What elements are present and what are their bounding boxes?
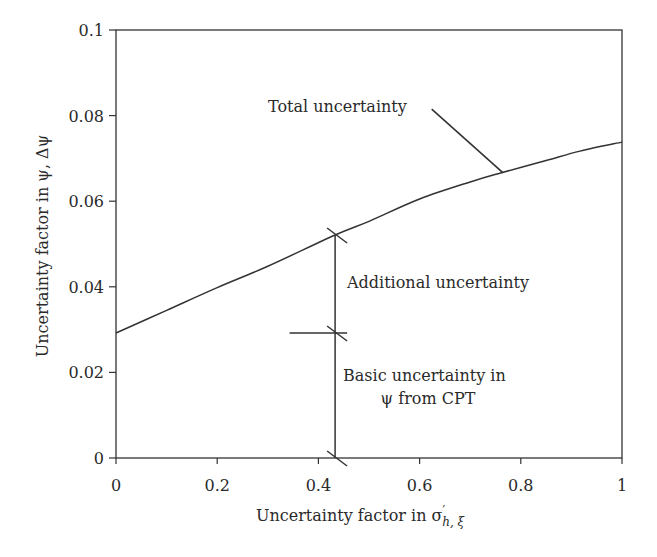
- x-tick-label: 0.2: [204, 476, 229, 495]
- label-basic-uncertainty-line1: Basic uncertainty in: [343, 366, 506, 385]
- label-total-uncertainty: Total uncertainty: [268, 97, 407, 116]
- y-tick-label: 0.04: [68, 278, 104, 297]
- x-tick-label: 0: [111, 476, 121, 495]
- y-tick-label: 0.08: [68, 107, 104, 126]
- y-axis-ticks: 00.020.040.060.080.1: [68, 21, 116, 468]
- x-tick-label: 0.8: [508, 476, 533, 495]
- chart: 00.20.40.60.81 00.020.040.060.080.1 Tota…: [0, 0, 657, 557]
- x-tick-label: 0.6: [407, 476, 432, 495]
- series-total-uncertainty: [116, 142, 622, 333]
- bracket-slash-top: [327, 228, 347, 243]
- x-axis-ticks: 00.20.40.60.81: [111, 458, 627, 495]
- y-tick-label: 0.1: [79, 21, 104, 40]
- label-additional-uncertainty: Additional uncertainty: [346, 273, 529, 292]
- annotations: Total uncertaintyAdditional uncertaintyB…: [268, 97, 529, 466]
- label-basic-uncertainty-line2: ψ from CPT: [381, 389, 476, 408]
- total-uncertainty-leader: [432, 109, 503, 173]
- y-axis-label: Uncertainty factor in ψ, Δψ: [33, 135, 52, 357]
- total-uncertainty-curve: [116, 142, 622, 333]
- x-axis-label: Uncertainty factor in σ′h, ξ: [256, 504, 466, 529]
- x-tick-label: 0.4: [306, 476, 331, 495]
- x-axis-label-main: Uncertainty factor in σ: [256, 506, 443, 525]
- y-tick-label: 0.02: [68, 363, 104, 382]
- x-axis-label-subscript: h, ξ: [442, 515, 465, 529]
- plot-border: [116, 30, 622, 458]
- y-tick-label: 0.06: [68, 192, 104, 211]
- plot-area: [116, 30, 622, 458]
- y-tick-label: 0: [94, 449, 104, 468]
- x-tick-label: 1: [617, 476, 627, 495]
